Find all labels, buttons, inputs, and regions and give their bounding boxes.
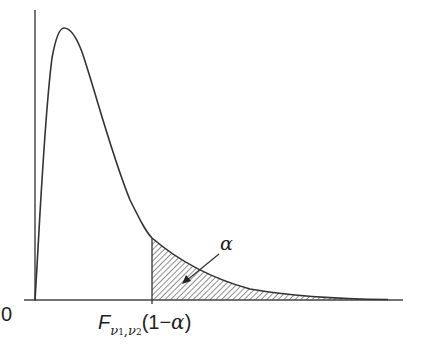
critical-value-alpha: α [171,310,185,334]
rejection-region [152,238,388,300]
density-curve [35,28,388,300]
critical-value-label: Fν1,ν2(1−α) [98,310,191,338]
f-distribution-diagram: 0 Fν1,ν2(1−α) α [0,0,429,359]
origin-label: 0 [1,303,12,326]
critical-value-arg-open: (1− [142,311,171,333]
nu2-symbol: ν [128,323,136,338]
density-plot [0,0,429,359]
critical-value-arg-close: ) [185,311,192,333]
tail-area-label: α [220,232,233,254]
critical-value-subscript: ν1,ν2 [110,323,141,338]
nu1-symbol: ν [110,323,118,338]
critical-value-symbol: F [98,311,110,333]
